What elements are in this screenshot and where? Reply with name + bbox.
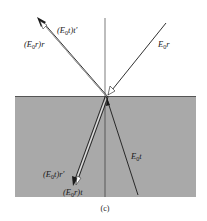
label-incident: E0r	[157, 39, 170, 50]
label-top-inner: (E0t)t′	[57, 25, 78, 36]
optics-diagram: (E0t)t′ (E0r)r E0r E0t (E0t)r′ (E0r)t (c…	[0, 0, 207, 221]
label-bottom-inner: (E0t)r′	[43, 169, 65, 180]
label-bottom-outer: (E0r)t	[63, 187, 83, 198]
label-top-outer: (E0r)r	[24, 39, 45, 50]
lower-medium	[15, 96, 196, 197]
figure-caption: (c)	[101, 204, 110, 213]
label-transmitted: E0t	[130, 151, 142, 162]
incident-ray	[108, 23, 166, 95]
